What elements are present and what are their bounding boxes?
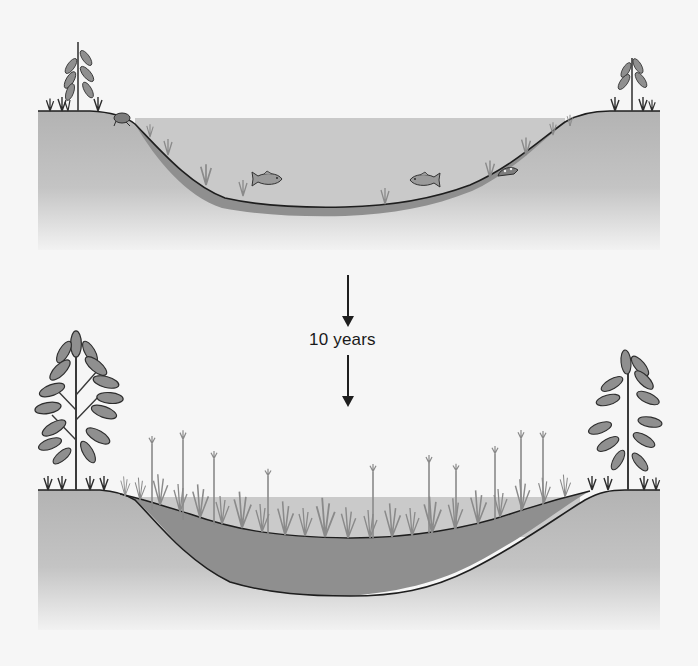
shrub-right [587, 350, 663, 490]
shrub-left [34, 331, 124, 490]
shore-plant-left [46, 42, 102, 111]
shore-plant-right [611, 57, 655, 111]
panel-before [38, 42, 660, 250]
transition-label: 10 years [309, 330, 376, 350]
